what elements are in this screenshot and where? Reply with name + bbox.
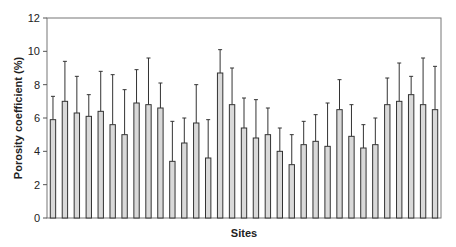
bar-group (313, 115, 318, 218)
bar-group (98, 71, 103, 218)
bar (361, 148, 366, 218)
bar-group (62, 61, 67, 218)
bar-group (420, 58, 425, 218)
bar (397, 101, 402, 218)
bar-group (134, 70, 139, 218)
x-axis-label: Sites (231, 227, 257, 239)
bars (50, 50, 437, 218)
bar (205, 158, 210, 218)
bar-group (182, 118, 187, 218)
bar-group (408, 76, 413, 218)
y-tick-label: 8 (34, 79, 40, 91)
bar (134, 103, 139, 218)
bar (289, 165, 294, 218)
bar (432, 110, 437, 218)
bar-group (361, 125, 366, 218)
bar-group (349, 105, 354, 218)
bar (110, 125, 115, 218)
bar (373, 145, 378, 218)
bar (170, 161, 175, 218)
bar-group (301, 121, 306, 218)
bar-group (50, 96, 55, 218)
bar-group (277, 128, 282, 218)
bar-group (241, 98, 246, 218)
bar-group (229, 68, 234, 218)
bar-group (325, 103, 330, 218)
bar-group (265, 108, 270, 218)
bar-group (194, 85, 199, 218)
bar-group (289, 135, 294, 218)
bar-group (337, 80, 342, 218)
bar (158, 108, 163, 218)
y-tick-label: 4 (34, 145, 40, 157)
bar (50, 120, 55, 218)
bar (182, 143, 187, 218)
bar (337, 110, 342, 218)
bar-group (217, 50, 222, 218)
bar (253, 138, 258, 218)
y-tick-label: 0 (34, 212, 40, 224)
bar (277, 151, 282, 218)
bar (122, 135, 127, 218)
bar-group (158, 83, 163, 218)
bar-group (86, 95, 91, 218)
bar (241, 128, 246, 218)
bar (265, 135, 270, 218)
bar-group (432, 66, 437, 218)
bar (349, 136, 354, 218)
bar-group (110, 75, 115, 218)
bar (325, 146, 330, 218)
bar-group (385, 78, 390, 218)
y-tick-label: 6 (34, 112, 40, 124)
bar (146, 105, 151, 218)
y-tick-label: 12 (28, 12, 40, 24)
bar (313, 141, 318, 218)
bar-group (74, 76, 79, 218)
bar-chart: 024681012 Porosity coefficient (%) Sites (0, 0, 456, 247)
bar (62, 101, 67, 218)
bar (385, 105, 390, 218)
bar (301, 145, 306, 218)
chart-canvas: 024681012 Porosity coefficient (%) Sites (0, 0, 456, 247)
bar (86, 116, 91, 218)
y-axis-label: Porosity coefficient (%) (12, 57, 24, 180)
bar-group (397, 63, 402, 218)
bar (74, 113, 79, 218)
bar-group (253, 100, 258, 218)
bar-group (146, 58, 151, 218)
bar (408, 95, 413, 218)
bar (420, 105, 425, 218)
bar-group (205, 120, 210, 218)
bar (217, 73, 222, 218)
bar (98, 111, 103, 218)
bar-group (170, 121, 175, 218)
y-tick-label: 2 (34, 179, 40, 191)
bar-group (122, 90, 127, 218)
bar-group (373, 118, 378, 218)
y-tick-label: 10 (28, 45, 40, 57)
bar (194, 123, 199, 218)
bar (229, 105, 234, 218)
